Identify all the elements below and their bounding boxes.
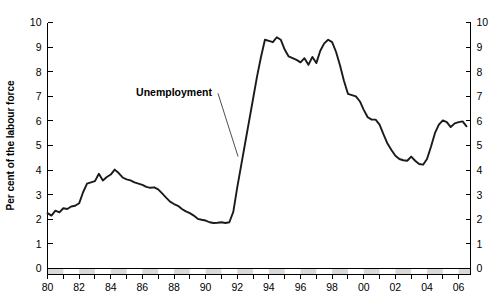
annotation-leader-line	[218, 93, 238, 156]
y-axis-left-tick-label: 3	[36, 189, 42, 201]
x-axis-tick-label: 80	[42, 281, 54, 293]
x-axis-tick-label: 84	[105, 281, 117, 293]
x-axis-tick-label: 96	[295, 281, 307, 293]
y-axis-right-tick-label: 9	[477, 41, 483, 53]
y-axis-right-tick-label: 10	[477, 16, 489, 28]
y-axis-left-tick-label: 10	[30, 16, 42, 28]
x-axis-tick-label: 98	[326, 281, 338, 293]
x-axis-tick-label: 02	[390, 281, 402, 293]
y-axis-right-tick-label: 2	[477, 213, 483, 225]
x-axis-tick-label: 94	[263, 281, 275, 293]
y-axis-right-tick-label: 0	[477, 262, 483, 274]
y-axis-left-tick-label: 6	[36, 115, 42, 127]
year-band	[111, 269, 127, 275]
year-band	[79, 269, 95, 275]
y-axis-left-tick-label: 1	[36, 238, 42, 250]
year-band	[174, 269, 190, 275]
y-axis-right-tick-label: 8	[477, 66, 483, 78]
y-axis-left-tick-label: 4	[36, 164, 42, 176]
year-band	[459, 269, 471, 275]
x-axis-tick-label: 04	[421, 281, 433, 293]
y-axis-left-tick-label: 0	[36, 262, 42, 274]
chart-canvas: 012345678910 012345678910 80828486889092…	[0, 0, 499, 306]
year-band	[427, 269, 443, 275]
data-series-group	[48, 37, 467, 223]
year-band	[395, 269, 411, 275]
y-axis-left-tick-label: 2	[36, 213, 42, 225]
y-axis-right-tick-label: 1	[477, 238, 483, 250]
y-axis-left-tick-label: 8	[36, 66, 42, 78]
year-band	[301, 269, 317, 275]
y-axis-left-tick-label: 9	[36, 41, 42, 53]
y-axis-right-tick-label: 7	[477, 90, 483, 102]
year-band	[332, 269, 348, 275]
unemployment-chart: 012345678910 012345678910 80828486889092…	[0, 0, 499, 306]
year-band	[142, 269, 158, 275]
x-axis-tick-label: 92	[231, 281, 243, 293]
x-axis-tick-label: 86	[137, 281, 149, 293]
y-axis-right-tick-label: 3	[477, 189, 483, 201]
year-band	[206, 269, 222, 275]
y-axis-left: 012345678910	[30, 16, 53, 274]
x-axis-tick-label: 82	[73, 281, 85, 293]
y-axis-right-tick-label: 4	[477, 164, 483, 176]
series-annotation-label: Unemployment	[136, 86, 212, 98]
year-band	[364, 269, 380, 275]
x-axis-tick-label: 00	[358, 281, 370, 293]
y-axis-right-tick-label: 6	[477, 115, 483, 127]
x-axis: 8082848688909294969800020406	[42, 275, 465, 293]
year-band	[48, 269, 64, 275]
y-axis-left-tick-label: 7	[36, 90, 42, 102]
y-axis-right: 012345678910	[466, 16, 489, 274]
x-axis-tick-label: 90	[200, 281, 212, 293]
year-band	[237, 269, 253, 275]
alternating-year-bands	[48, 269, 471, 275]
series-line-unemployment	[48, 37, 467, 223]
x-axis-tick-label: 88	[168, 281, 180, 293]
y-axis-right-tick-label: 5	[477, 139, 483, 151]
year-band	[269, 269, 285, 275]
y-axis-left-tick-label: 5	[36, 139, 42, 151]
y-axis-title: Per cent of the labour force	[5, 80, 16, 210]
x-axis-tick-label: 06	[453, 281, 465, 293]
